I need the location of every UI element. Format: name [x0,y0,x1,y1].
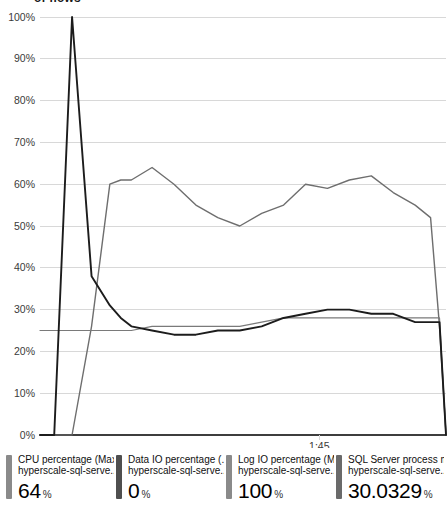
legend-text-block: CPU percentage (Max) hyperscale-sql-serv… [18,454,114,503]
legend-resource-name: hyperscale-sql-serve.. [348,465,444,476]
legend-color-swatch [116,455,122,499]
gridlines-group [40,17,446,435]
x-axis-tick-label: 1:45 [309,440,330,448]
y-axis-tick-label: 90% [14,52,35,64]
legend-unit: % [274,489,283,500]
legend-value-row: 30.0329 % [348,479,444,503]
legend-color-swatch [226,455,232,499]
y-axis-labels-group: 100%90%80%70%60%50%40%30%20%10%0% [8,11,35,441]
legend-unit: % [424,489,433,500]
y-axis-tick-label: 80% [14,94,35,106]
legend-text-block: Data IO percentage (... hyperscale-sql-s… [128,454,224,503]
chart-legend: CPU percentage (Max) hyperscale-sql-serv… [6,454,442,502]
legend-metric-name: CPU percentage (Max) [18,454,114,465]
legend-item[interactable]: Data IO percentage (... hyperscale-sql-s… [116,454,226,502]
series-line-0 [40,167,446,435]
legend-resource-name: hyperscale-sql-serve.. [238,465,334,476]
legend-unit: % [43,489,52,500]
y-axis-tick-label: 20% [14,345,35,357]
y-axis-tick-label: 0% [20,429,35,441]
legend-item[interactable]: CPU percentage (Max) hyperscale-sql-serv… [6,454,116,502]
chart-svg: 100%90%80%70%60%50%40%30%20%10%0% 1:45 [0,0,448,448]
y-axis-tick-label: 40% [14,261,35,273]
legend-value: 100 [238,479,272,503]
legend-unit: % [141,489,150,500]
legend-value: 0 [128,479,139,503]
legend-color-swatch [336,455,342,499]
y-axis-tick-label: 70% [14,136,35,148]
legend-resource-name: hyperscale-sql-serve.. [18,465,114,476]
legend-color-swatch [6,455,12,499]
legend-value: 30.0329 [348,479,422,503]
legend-resource-name: hyperscale-sql-serve.. [128,465,224,476]
legend-item[interactable]: SQL Server process m... hyperscale-sql-s… [336,454,446,502]
legend-value-row: 100 % [238,479,334,503]
legend-value-row: 64 % [18,479,114,503]
legend-metric-name: Data IO percentage (... [128,454,224,465]
metrics-chart-panel: of flows 100%90%80%70%60%50%40%30%20%10%… [0,0,448,506]
chart-plot-area: 100%90%80%70%60%50%40%30%20%10%0% 1:45 [0,0,448,448]
y-axis-tick-label: 60% [14,178,35,190]
legend-text-block: Log IO percentage (Max) hyperscale-sql-s… [238,454,334,503]
y-axis-tick-label: 100% [8,11,35,23]
legend-text-block: SQL Server process m... hyperscale-sql-s… [348,454,444,503]
series-line-2 [40,318,446,435]
legend-metric-name: Log IO percentage (Max) [238,454,334,465]
y-axis-tick-label: 30% [14,303,35,315]
legend-value-row: 0 % [128,479,224,503]
legend-metric-name: SQL Server process m... [348,454,444,465]
legend-item[interactable]: Log IO percentage (Max) hyperscale-sql-s… [226,454,336,502]
y-axis-tick-label: 10% [14,387,35,399]
legend-value: 64 [18,479,41,503]
x-axis-group: 1:45 [309,435,330,448]
y-axis-tick-label: 50% [14,220,35,232]
